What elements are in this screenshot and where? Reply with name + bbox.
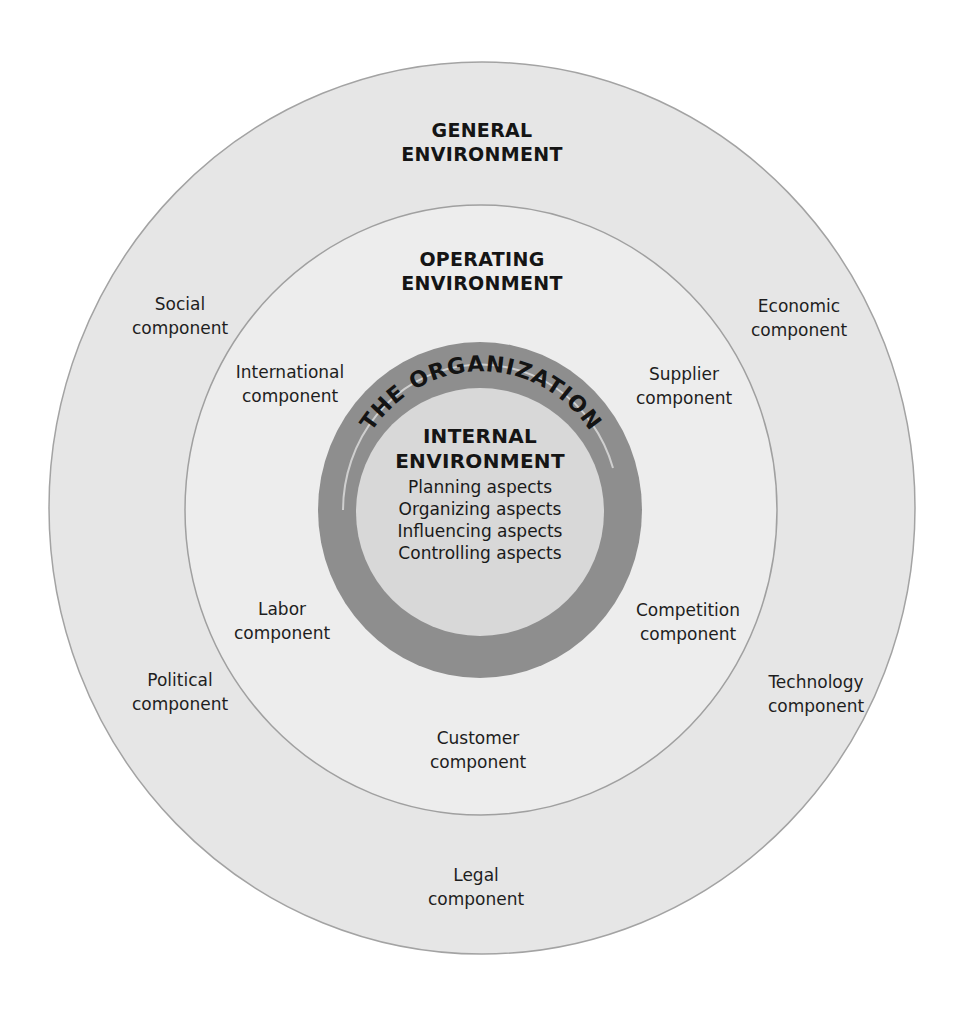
customer-line2: component (430, 750, 526, 774)
general-environment-title: GENERAL ENVIRONMENT (401, 118, 562, 166)
influencing-aspects: Influencing aspects (398, 520, 563, 542)
political-component-label: Political component (132, 668, 228, 716)
technology-line2: component (768, 694, 864, 718)
controlling-aspects: Controlling aspects (398, 542, 563, 564)
labor-line1: Labor (234, 597, 330, 621)
labor-component-label: Labor component (234, 597, 330, 645)
social-line1: Social (132, 292, 228, 316)
economic-component-label: Economic component (751, 294, 847, 342)
operating-title-line2: ENVIRONMENT (401, 271, 562, 295)
legal-line2: component (428, 887, 524, 911)
supplier-line2: component (636, 386, 732, 410)
planning-aspects: Planning aspects (398, 476, 563, 498)
customer-line1: Customer (430, 726, 526, 750)
international-line2: component (236, 384, 345, 408)
economic-line1: Economic (751, 294, 847, 318)
competition-line1: Competition (636, 598, 740, 622)
social-component-label: Social component (132, 292, 228, 340)
internal-environment-title: INTERNAL ENVIRONMENT (395, 424, 565, 474)
legal-component-label: Legal component (428, 863, 524, 911)
economic-line2: component (751, 318, 847, 342)
organizing-aspects: Organizing aspects (398, 498, 563, 520)
internal-aspects-list: Planning aspects Organizing aspects Infl… (398, 476, 563, 564)
operating-environment-title: OPERATING ENVIRONMENT (401, 247, 562, 295)
social-line2: component (132, 316, 228, 340)
internal-title-line1: INTERNAL (395, 424, 565, 449)
general-title-line1: GENERAL (401, 118, 562, 142)
technology-component-label: Technology component (768, 670, 864, 718)
supplier-line1: Supplier (636, 362, 732, 386)
international-line1: International (236, 360, 345, 384)
technology-line1: Technology (768, 670, 864, 694)
political-line2: component (132, 692, 228, 716)
legal-line1: Legal (428, 863, 524, 887)
operating-title-line1: OPERATING (401, 247, 562, 271)
customer-component-label: Customer component (430, 726, 526, 774)
competition-component-label: Competition component (636, 598, 740, 646)
internal-title-line2: ENVIRONMENT (395, 449, 565, 474)
labor-line2: component (234, 621, 330, 645)
international-component-label: International component (236, 360, 345, 408)
competition-line2: component (636, 622, 740, 646)
general-title-line2: ENVIRONMENT (401, 142, 562, 166)
political-line1: Political (132, 668, 228, 692)
supplier-component-label: Supplier component (636, 362, 732, 410)
